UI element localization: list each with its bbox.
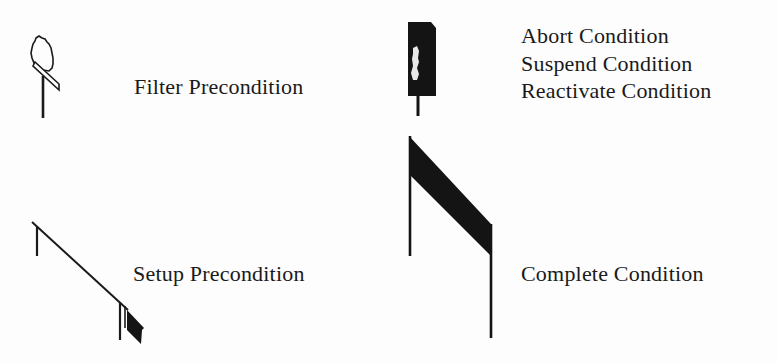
- setup-precondition-label: Setup Precondition: [133, 260, 305, 288]
- abort-condition-icon: [405, 18, 445, 118]
- filter-precondition-label: Filter Precondition: [134, 73, 303, 101]
- reactivate-condition-label: Reactivate Condition: [521, 77, 711, 105]
- complete-condition-icon: [405, 134, 505, 344]
- complete-condition-label: Complete Condition: [521, 260, 704, 288]
- abort-condition-label: Abort Condition: [521, 22, 711, 50]
- suspend-condition-label: Suspend Condition: [521, 50, 711, 78]
- filter-precondition-icon: [25, 32, 65, 122]
